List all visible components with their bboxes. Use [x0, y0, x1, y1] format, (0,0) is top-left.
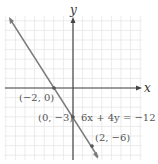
x-axis-arrow-icon: [136, 86, 142, 91]
y-axis-label: y: [69, 3, 77, 17]
point-label-2-neg6: (2, −6): [95, 132, 130, 143]
point-2-neg6: [90, 144, 94, 148]
x-axis-label: x: [144, 81, 151, 95]
y-axis-arrow-icon: [71, 17, 76, 23]
point-label-0-neg3: (0, −3): [38, 112, 73, 123]
equation-label: 6x + 4y = −12: [81, 112, 156, 123]
point-neg2-0: [52, 86, 56, 90]
point-label-neg2-0: (−2, 0): [19, 92, 54, 103]
graph: y x (−2, 0) (0, −3) 6x + 4y = −12 (2, −6…: [0, 0, 158, 164]
